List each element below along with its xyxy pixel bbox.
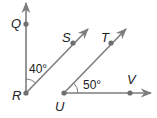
point-label-U: U xyxy=(55,99,65,114)
angle-arc-QRS xyxy=(26,79,36,83)
angle-arc-TUV xyxy=(74,83,78,93)
point-Q xyxy=(23,21,28,26)
point-label-Q: Q xyxy=(11,16,21,31)
point-U xyxy=(61,90,66,95)
point-label-V: V xyxy=(127,72,137,87)
point-S xyxy=(70,40,75,45)
point-label-T: T xyxy=(101,30,110,45)
angle-TUV-label: 50° xyxy=(83,78,101,92)
point-V xyxy=(127,90,132,95)
ray-RS xyxy=(26,29,88,93)
point-T xyxy=(108,40,113,45)
point-label-S: S xyxy=(62,30,71,45)
point-label-R: R xyxy=(12,88,21,103)
geometry-diagram: QRSTUV40°50° xyxy=(0,0,157,118)
angle-QRS-label: 40° xyxy=(29,62,47,76)
point-R xyxy=(23,90,28,95)
